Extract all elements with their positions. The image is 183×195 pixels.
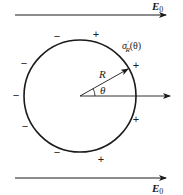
charge-plus: +: [133, 113, 139, 125]
charge-minus: −: [13, 89, 19, 101]
surface-charge-label: σ′R(θ): [122, 39, 141, 54]
charge-minus: −: [21, 57, 27, 69]
charge-minus: −: [54, 146, 60, 158]
charge-plus: +: [93, 28, 99, 40]
top-field-label: E0: [151, 0, 163, 14]
charge-minus: −: [54, 30, 60, 42]
angle-label: θ: [100, 84, 106, 96]
charge-minus: −: [22, 120, 28, 132]
angle-arc: [93, 89, 95, 97]
bottom-field-label: E0: [151, 182, 163, 195]
charge-plus: +: [98, 153, 104, 165]
sphere-field-diagram: E0 R θ σ′R(θ) − + + − − − + − + E0: [0, 0, 183, 195]
radius-label: R: [98, 68, 106, 80]
charge-plus: +: [133, 59, 139, 71]
